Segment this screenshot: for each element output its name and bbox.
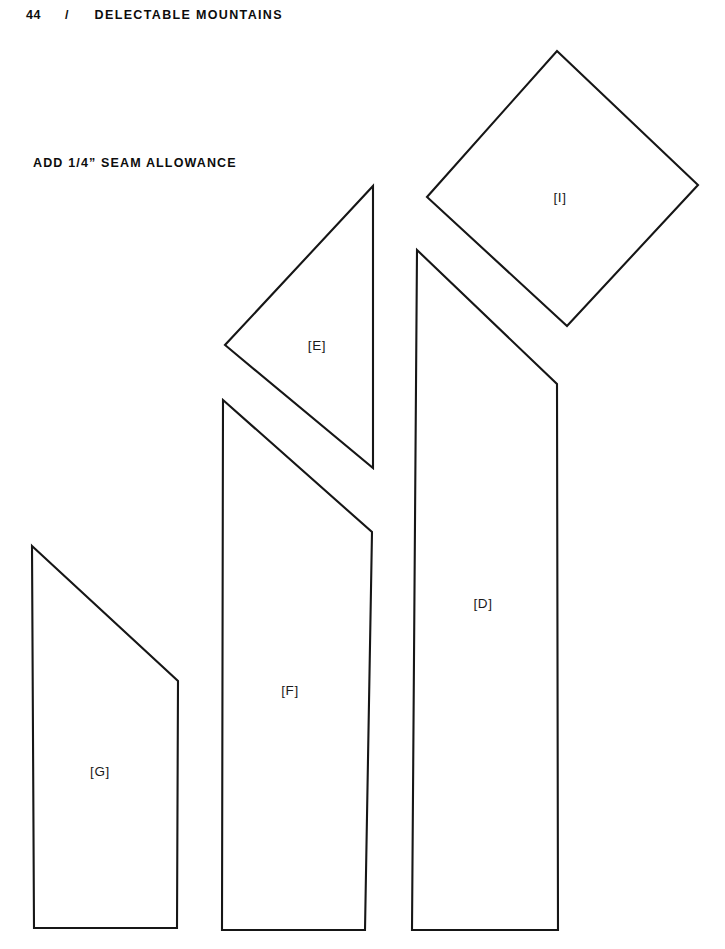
piece-label-i: [I]	[553, 190, 566, 205]
pattern-piece-g	[32, 546, 178, 928]
piece-label-d: [D]	[473, 596, 492, 611]
pattern-piece-f	[222, 400, 372, 930]
pattern-template-plate	[0, 0, 725, 949]
pattern-piece-d	[412, 250, 558, 930]
piece-label-g: [G]	[90, 764, 110, 779]
piece-label-f: [F]	[281, 683, 299, 698]
pattern-piece-i	[427, 51, 698, 326]
pattern-page: 44 / DELECTABLE MOUNTAINS ADD 1/4” SEAM …	[0, 0, 725, 949]
piece-label-e: [E]	[308, 338, 326, 353]
